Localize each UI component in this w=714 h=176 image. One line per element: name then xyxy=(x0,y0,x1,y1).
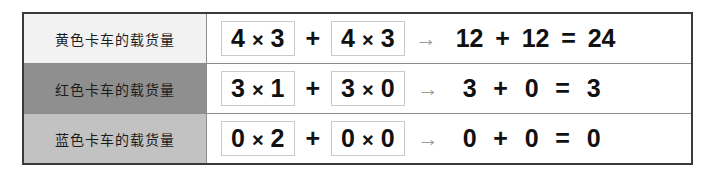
expression-group: 0 × 2 + 0 × 0 → 0 + 0 = xyxy=(221,121,691,155)
term-1-factor-b: 3 xyxy=(271,25,285,51)
term-1-factor-a: 4 xyxy=(231,25,245,51)
result-left-value: 0 xyxy=(455,125,485,151)
result-equals-operator: = xyxy=(551,75,575,101)
multiplication-term-1: 4 × 3 xyxy=(221,21,295,55)
multiplication-term-2: 4 × 3 xyxy=(331,21,405,55)
term-1-factor-b: 2 xyxy=(271,125,285,151)
result-left-value: 12 xyxy=(453,25,487,51)
multiplication-term-2: 3 × 0 xyxy=(331,71,405,105)
right-arrow-icon: → xyxy=(416,28,437,49)
table-row: 蓝色卡车的载货量 0 × 2 + 0 × 0 → xyxy=(24,114,691,163)
result-equals-operator: = xyxy=(557,25,581,51)
result-plus-operator: + xyxy=(491,25,515,51)
right-arrow-icon: → xyxy=(418,78,439,99)
result-right-value: 0 xyxy=(517,125,547,151)
row-label-cell-red: 红色卡车的载货量 xyxy=(24,64,207,113)
term-1-factor-b: 1 xyxy=(271,75,285,101)
term-1-factor-a: 3 xyxy=(231,75,245,101)
row-label-cell-yellow: 黄色卡车的载货量 xyxy=(24,14,207,63)
table-row: 红色卡车的载货量 3 × 1 + 3 × 0 → xyxy=(24,64,691,114)
table-row: 黄色卡车的载货量 4 × 3 + 4 × 3 → xyxy=(24,14,691,64)
result-right-value: 0 xyxy=(517,75,547,101)
term-2-factor-b: 3 xyxy=(381,25,395,51)
result-total-value: 3 xyxy=(579,75,609,101)
multiplication-term-2: 0 × 0 xyxy=(331,121,405,155)
multiply-icon: × xyxy=(252,80,264,101)
result-equals-operator: = xyxy=(551,125,575,151)
result-right-value: 12 xyxy=(519,25,553,51)
result-expression: 3 + 0 = 3 xyxy=(455,75,609,101)
expression-group: 4 × 3 + 4 × 3 → 12 + 12 = xyxy=(221,21,691,55)
multiply-icon: × xyxy=(362,30,374,51)
term-2-factor-a: 0 xyxy=(341,125,355,151)
multiplication-term-1: 3 × 1 xyxy=(221,71,295,105)
row-expression-cell-red: 3 × 1 + 3 × 0 → 3 + 0 = xyxy=(207,64,691,113)
expression-group: 3 × 1 + 3 × 0 → 3 + 0 = xyxy=(221,71,691,105)
right-arrow-icon: → xyxy=(418,128,439,149)
plus-operator: + xyxy=(306,125,321,151)
multiply-icon: × xyxy=(362,80,374,101)
term-2-factor-a: 3 xyxy=(341,75,355,101)
result-expression: 0 + 0 = 0 xyxy=(455,125,609,151)
result-plus-operator: + xyxy=(489,75,513,101)
truck-cargo-table: 黄色卡车的载货量 4 × 3 + 4 × 3 → xyxy=(22,12,693,165)
screenshot-canvas: 黄色卡车的载货量 4 × 3 + 4 × 3 → xyxy=(0,0,714,176)
row-expression-cell-yellow: 4 × 3 + 4 × 3 → 12 + 12 = xyxy=(207,14,691,63)
multiply-icon: × xyxy=(252,130,264,151)
multiply-icon: × xyxy=(252,30,264,51)
multiply-icon: × xyxy=(362,130,374,151)
multiplication-term-1: 0 × 2 xyxy=(221,121,295,155)
term-1-factor-a: 0 xyxy=(231,125,245,151)
result-plus-operator: + xyxy=(489,125,513,151)
plus-operator: + xyxy=(306,25,321,51)
row-label-cell-blue: 蓝色卡车的载货量 xyxy=(24,114,207,163)
row-label-text: 黄色卡车的载货量 xyxy=(55,29,175,49)
result-total-value: 24 xyxy=(585,25,619,51)
result-total-value: 0 xyxy=(579,125,609,151)
row-label-text: 红色卡车的载货量 xyxy=(55,79,175,99)
result-expression: 12 + 12 = 24 xyxy=(453,25,619,51)
term-2-factor-a: 4 xyxy=(341,25,355,51)
row-label-text: 蓝色卡车的载货量 xyxy=(55,129,175,149)
plus-operator: + xyxy=(306,75,321,101)
term-2-factor-b: 0 xyxy=(381,75,395,101)
term-2-factor-b: 0 xyxy=(381,125,395,151)
row-expression-cell-blue: 0 × 2 + 0 × 0 → 0 + 0 = xyxy=(207,114,691,163)
result-left-value: 3 xyxy=(455,75,485,101)
